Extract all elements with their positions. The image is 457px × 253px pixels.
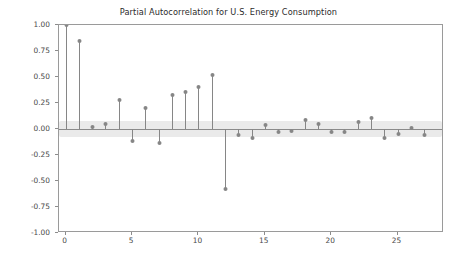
stem-line xyxy=(185,92,186,129)
stem-marker xyxy=(330,130,334,134)
plot-area xyxy=(58,24,443,232)
x-tick-label: 5 xyxy=(129,236,134,245)
stem-marker xyxy=(170,93,174,97)
stem-marker xyxy=(131,139,135,143)
stem-marker xyxy=(383,136,387,140)
stem-line xyxy=(145,108,146,129)
stem-marker xyxy=(210,73,214,77)
stem-marker xyxy=(409,126,413,130)
stem-line xyxy=(212,75,213,129)
stem-marker xyxy=(117,98,121,102)
plot-inner xyxy=(59,25,442,231)
stem-line xyxy=(225,129,226,189)
x-tick-label: 0 xyxy=(62,236,67,245)
stem-marker xyxy=(223,187,227,191)
x-tick-mark xyxy=(264,232,265,235)
stem-marker xyxy=(316,122,320,126)
x-tick-mark xyxy=(330,232,331,235)
stem-marker xyxy=(144,106,148,110)
stem-line xyxy=(119,100,120,129)
x-tick-label: 20 xyxy=(325,236,334,245)
x-tick-mark xyxy=(197,232,198,235)
x-tick-mark xyxy=(397,232,398,235)
stem-line xyxy=(172,95,173,129)
stem-marker xyxy=(157,141,161,145)
x-tick-mark xyxy=(131,232,132,235)
stem-marker xyxy=(64,25,68,27)
stem-marker xyxy=(184,90,188,94)
stem-marker xyxy=(277,130,281,134)
stem-marker xyxy=(263,123,267,127)
stem-marker xyxy=(369,116,373,120)
stem-marker xyxy=(91,125,95,129)
x-tick-label: 25 xyxy=(392,236,401,245)
x-tick-label: 10 xyxy=(193,236,202,245)
stem-line xyxy=(198,87,199,129)
stem-marker xyxy=(104,122,108,126)
stem-marker xyxy=(250,136,254,140)
stem-marker xyxy=(303,118,307,122)
stem-marker xyxy=(77,39,81,43)
stem-marker xyxy=(343,130,347,134)
stem-line xyxy=(79,41,80,129)
x-tick-label: 15 xyxy=(259,236,268,245)
stem-marker xyxy=(237,133,241,137)
stem-marker xyxy=(423,133,427,137)
stem-marker xyxy=(396,132,400,136)
stem-marker xyxy=(290,129,294,133)
stem-marker xyxy=(197,85,201,89)
stem-line xyxy=(66,25,67,129)
x-tick-mark xyxy=(65,232,66,235)
stem-marker xyxy=(356,120,360,124)
chart-figure: Partial Autocorrelation for U.S. Energy … xyxy=(0,0,457,253)
